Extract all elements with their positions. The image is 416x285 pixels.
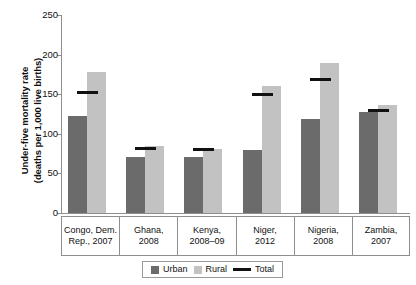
category-label: Zambia,2007 xyxy=(352,217,410,255)
bar-urban xyxy=(184,157,203,213)
bar-urban xyxy=(126,157,145,213)
legend-swatch-total-icon xyxy=(233,268,251,271)
legend-item-urban: Urban xyxy=(151,265,188,274)
category-label: Ghana,2008 xyxy=(119,217,177,255)
bar-urban xyxy=(243,150,262,213)
x-axis-line xyxy=(61,213,410,214)
category-label: Congo, Dem.Rep., 2007 xyxy=(61,217,119,255)
bar-rural xyxy=(203,149,222,213)
bar-group xyxy=(243,15,281,213)
y-tick-label-250: 250 xyxy=(18,10,58,20)
y-tick-label-50: 50 xyxy=(18,168,58,178)
bar-rural xyxy=(378,105,397,214)
category-label-line: 2008 xyxy=(313,236,333,246)
under-five-mortality-bar-chart: Under-five mortality rate (deaths per 1,… xyxy=(0,0,416,285)
category-label: Kenya,2008–09 xyxy=(177,217,235,255)
bar-urban xyxy=(301,119,320,213)
category-label-line: Rep., 2007 xyxy=(69,236,113,246)
category-label-line: 2012 xyxy=(255,236,275,246)
bar-group xyxy=(301,15,339,213)
y-axis-title-line-2: (deaths per 1,000 live births) xyxy=(31,58,42,183)
bar-rural xyxy=(320,63,339,213)
bar-group xyxy=(359,15,397,213)
category-label: Nigeria,2008 xyxy=(294,217,352,255)
category-axis: Congo, Dem.Rep., 2007Ghana,2008Kenya,200… xyxy=(61,216,410,256)
category-label-line: Ghana, xyxy=(134,225,164,235)
bar-urban xyxy=(359,112,378,213)
bar-group xyxy=(184,15,222,213)
category-label-line: 2008 xyxy=(139,236,159,246)
y-tick-label-200: 200 xyxy=(18,50,58,60)
category-label-line: Kenya, xyxy=(193,225,221,235)
category-label-line: Nigeria, xyxy=(308,225,339,235)
category-label: Niger,2012 xyxy=(236,217,294,255)
plot-area: 050100150200250 xyxy=(61,15,410,214)
legend-swatch-urban-icon xyxy=(151,266,159,274)
legend-swatch-rural-icon xyxy=(194,266,202,274)
total-marker xyxy=(193,148,214,151)
category-label-line: Congo, Dem. xyxy=(64,225,117,235)
total-marker xyxy=(135,147,156,150)
y-axis-title-line-1: Under-five mortality rate xyxy=(19,67,30,174)
category-label-line: 2008–09 xyxy=(189,236,224,246)
total-marker xyxy=(252,93,273,96)
legend-label-urban: Urban xyxy=(163,265,188,274)
category-label-line: Zambia, xyxy=(365,225,398,235)
y-tick-label-150: 150 xyxy=(18,89,58,99)
total-marker xyxy=(368,109,389,112)
bar-rural xyxy=(262,86,281,213)
legend-label-rural: Rural xyxy=(206,265,228,274)
bar-urban xyxy=(68,116,87,213)
bar-rural xyxy=(145,146,164,213)
bar-group xyxy=(68,15,106,213)
y-axis-line xyxy=(61,15,62,214)
y-tick-label-0: 0 xyxy=(18,208,58,218)
legend-label-total: Total xyxy=(255,265,274,274)
chart-legend: Urban Rural Total xyxy=(142,261,283,278)
y-tick-label-100: 100 xyxy=(18,129,58,139)
category-label-line: 2007 xyxy=(371,236,391,246)
total-marker xyxy=(310,78,331,81)
bar-group xyxy=(126,15,164,213)
total-marker xyxy=(77,91,98,94)
category-label-line: Niger, xyxy=(253,225,277,235)
legend-item-rural: Rural xyxy=(194,265,228,274)
legend-item-total: Total xyxy=(233,265,274,274)
